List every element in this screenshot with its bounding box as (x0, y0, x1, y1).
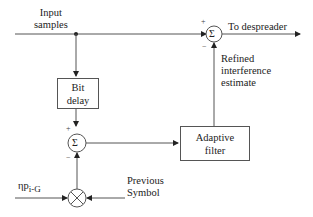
bit-delay-block: Bit delay (57, 78, 99, 109)
middle-summer-minus: − (66, 154, 71, 162)
refined-interference-label: Refined interference estimate (221, 53, 271, 89)
to-despreader-label: To despreader (228, 21, 287, 33)
adaptive-filter-block: Adaptive filter (180, 126, 250, 161)
top-summer-minus: − (202, 43, 207, 51)
top-summer-plus: + (201, 18, 206, 26)
middle-summer-sigma: Σ (72, 137, 78, 149)
top-summer-sigma: Σ (209, 28, 215, 40)
previous-symbol-label: Previous Symbol (127, 175, 164, 199)
eta-p-label: ηpi-G (18, 180, 41, 195)
input-samples-label: Input samples (34, 7, 68, 31)
middle-summer-plus: + (66, 125, 71, 133)
